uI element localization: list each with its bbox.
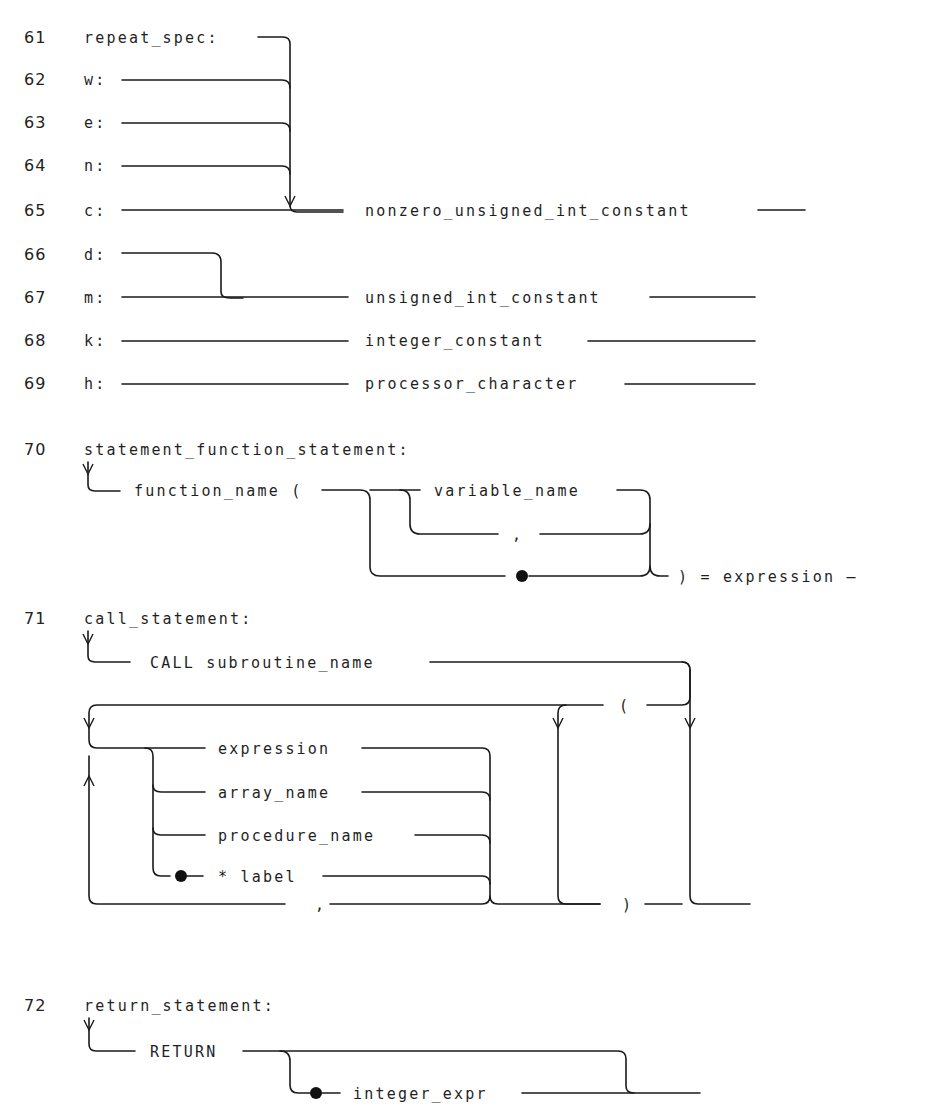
- option-expression: expression: [218, 740, 330, 758]
- w-line: [122, 80, 290, 88]
- rule-number-62: 62: [24, 70, 46, 89]
- entry-line: [88, 462, 120, 491]
- array-name-entry: [153, 785, 205, 792]
- rule-70-group: 70 statement_function_statement: functio…: [24, 440, 858, 586]
- rule-number-69: 69: [24, 374, 46, 393]
- rule-name-statement-function-statement: statement_function_statement:: [84, 441, 410, 459]
- inner-loop-right: [540, 524, 650, 534]
- assignment-tail: ) = expression –: [678, 568, 858, 586]
- expression-exit-line: [362, 748, 600, 904]
- rule-name-return-statement: return_statement:: [84, 997, 275, 1015]
- rule-number-66: 66: [24, 245, 46, 264]
- to-open-paren-line: [647, 662, 690, 705]
- integer-constant: integer_constant: [365, 332, 545, 350]
- rule-68-group: 68 k: integer_constant: [24, 331, 755, 350]
- option-label: * label: [218, 868, 297, 886]
- rule-number-70: 70: [24, 440, 46, 459]
- entry-line: [89, 1018, 135, 1051]
- option-array-name: array_name: [218, 784, 330, 802]
- open-paren-row-line: [89, 705, 603, 748]
- rule-number-71: 71: [24, 609, 46, 628]
- processor-character: processor_character: [365, 375, 578, 393]
- comma: ,: [512, 526, 523, 544]
- rule-number-67: 67: [24, 288, 46, 307]
- rule-number-61: 61: [24, 28, 46, 47]
- procedure-name-exit: [415, 835, 490, 843]
- open-paren: (: [619, 697, 630, 715]
- rule-66-67-group: 66 d: 67 m: unsigned_int_constant: [24, 245, 755, 307]
- variable-name: variable_name: [434, 482, 580, 500]
- rule-number-65: 65: [24, 201, 46, 220]
- rule-name-w: w:: [84, 71, 106, 89]
- rule-number-63: 63: [24, 113, 46, 132]
- comma-loop-right: [330, 896, 490, 904]
- d-line: [122, 253, 243, 298]
- rule-name-e: e:: [84, 114, 106, 132]
- rule-61-65-group: 61 repeat_spec: 62 w: 63 e: 64 n: 65 c: …: [24, 28, 805, 220]
- comma: ,: [315, 896, 326, 914]
- no-args-bypass-line: [430, 662, 750, 904]
- rule-name-d: d:: [84, 246, 106, 264]
- dot-icon: [310, 1087, 322, 1099]
- option-procedure-name: procedure_name: [218, 827, 375, 845]
- rule-71-group: 71 call_statement: CALL subroutine_name …: [24, 609, 750, 914]
- repeat-spec-line: [258, 37, 343, 212]
- entry-line: [88, 631, 130, 662]
- outer-skip-line-right: [529, 566, 650, 576]
- rule-name-k: k:: [84, 332, 106, 350]
- n-line: [122, 166, 290, 174]
- rule-name-call-statement: call_statement:: [84, 610, 252, 628]
- integer-expr-branch: [280, 1051, 310, 1093]
- rule-number-64: 64: [24, 156, 46, 175]
- keyword-return: RETURN: [150, 1043, 217, 1061]
- variable-name-exit: [617, 490, 668, 576]
- procedure-name-entry: [153, 828, 205, 835]
- rule-69-group: 69 h: processor_character: [24, 374, 755, 393]
- e-line: [122, 123, 290, 131]
- close-paren: ): [622, 896, 633, 914]
- rule-number-72: 72: [24, 996, 46, 1015]
- rule-72-group: 72 return_statement: RETURN integer_expr: [24, 996, 700, 1103]
- rule-name-c: c:: [84, 202, 106, 220]
- label-exit: [323, 876, 490, 884]
- rule-name-m: m:: [84, 289, 106, 307]
- syntax-diagram: 61 repeat_spec: 62 w: 63 e: 64 n: 65 c: …: [0, 0, 935, 1108]
- rule-name-repeat-spec: repeat_spec:: [84, 29, 219, 47]
- options-branch-line: [145, 748, 170, 876]
- dot-icon: [516, 570, 528, 582]
- unsigned-int-constant: unsigned_int_constant: [365, 289, 601, 307]
- call-subroutine-name: CALL subroutine_name: [150, 654, 375, 672]
- integer-expr: integer_expr: [353, 1085, 488, 1103]
- rule-name-h: h:: [84, 375, 106, 393]
- array-name-exit: [362, 792, 490, 800]
- dot-icon: [175, 870, 187, 882]
- function-name: function_name (: [134, 482, 302, 500]
- rule-name-n: n:: [84, 157, 106, 175]
- nonzero-unsigned-int-constant: nonzero_unsigned_int_constant: [365, 202, 691, 220]
- rule-number-68: 68: [24, 331, 46, 350]
- empty-args-line: [558, 705, 600, 904]
